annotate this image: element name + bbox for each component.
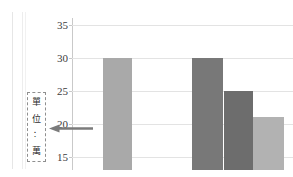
gridline: [72, 25, 293, 26]
bar[interactable]: [192, 58, 223, 170]
unit-callout-char: 單: [32, 98, 41, 107]
y-axis-tick-label: 30: [57, 52, 68, 64]
bar[interactable]: [224, 91, 253, 170]
unit-callout-box: 單 位 ： 萬: [27, 92, 46, 162]
arrow-left-icon: [49, 124, 93, 133]
chart-screenshot: 3530252015 單 位 ： 萬: [0, 0, 293, 177]
y-axis-tick-label: 25: [57, 85, 68, 97]
unit-callout-char: 位: [32, 115, 41, 124]
plot-area: [72, 18, 293, 170]
y-axis-tick-label: 35: [57, 19, 68, 31]
unit-callout-char: 萬: [32, 147, 41, 156]
y-axis-tick-label: 15: [57, 151, 68, 163]
unit-callout-char: ：: [33, 131, 41, 139]
bar[interactable]: [253, 117, 284, 170]
bar[interactable]: [103, 58, 132, 170]
